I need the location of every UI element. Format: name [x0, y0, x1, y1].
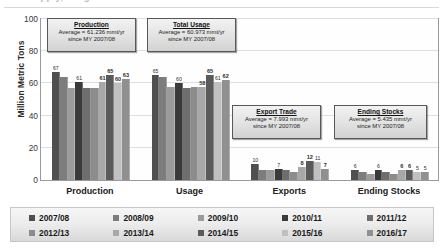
legend-label: 2013/14 [123, 228, 153, 238]
cut-off-title: Supply, Usage and Stocks [0, 0, 443, 7]
bar [60, 77, 68, 180]
bar [75, 82, 83, 180]
bar [198, 87, 206, 180]
callout-average: Average = 60.973 mmt/yr [150, 29, 233, 36]
chart-legend: 2007/082008/092009/102010/112011/12 2012… [10, 207, 434, 242]
legend-item-2007-08[interactable]: 2007/08 [11, 210, 95, 226]
bar-value-label: 61 [70, 75, 89, 81]
legend-item-2008-09[interactable]: 2008/09 [95, 210, 179, 226]
bar [298, 167, 306, 180]
bar [367, 174, 375, 180]
callout-production: ProductionAverage = 61.236 mmt/yrsince M… [47, 18, 136, 52]
callout-title: Production [50, 21, 133, 29]
bar [114, 83, 122, 180]
callout-title: Export Trade [235, 108, 318, 116]
bar [83, 88, 91, 180]
callout-title: Total Usage [150, 21, 233, 29]
legend-item-2012-13[interactable]: 2012/13 [11, 225, 95, 241]
bar [68, 88, 76, 180]
bar-value-label: 10 [246, 157, 265, 163]
legend-label: 2011/12 [377, 213, 407, 223]
callout-period: since MY 2007/08 [337, 123, 424, 130]
legend-swatch-icon [198, 215, 204, 221]
bar [152, 75, 160, 180]
legend-label: 2010/11 [292, 213, 322, 223]
bar [222, 80, 230, 180]
bar [275, 169, 283, 180]
bar [175, 83, 183, 180]
callout-average: Average = 5.435 mmt/yr [337, 116, 424, 123]
callout-period: since MY 2007/08 [150, 36, 233, 43]
bar [183, 88, 191, 180]
bar [91, 88, 99, 180]
legend-label: 2016/17 [377, 228, 407, 238]
legend-swatch-icon [113, 215, 119, 221]
chart-figure: Supply, Usage and Stocks 100806040200 Mi… [0, 0, 443, 250]
legend-swatch-icon [282, 230, 288, 236]
bar [191, 87, 199, 180]
bar [283, 170, 291, 180]
bar [421, 172, 429, 180]
bar-value-label: 65 [146, 68, 165, 74]
callout-total-usage: Total UsageAverage = 60.973 mmt/yrsince … [147, 18, 236, 52]
title-divider [4, 7, 439, 8]
bar-value-label: 6 [346, 163, 365, 169]
legend-swatch-icon [29, 215, 35, 221]
bar-value-label: 11 [308, 155, 327, 161]
bar [290, 172, 298, 180]
legend-label: 2014/15 [208, 228, 238, 238]
bar [351, 170, 359, 180]
bar-value-label: 60 [170, 76, 189, 82]
legend-swatch-icon [282, 215, 288, 221]
callout-title: Ending Stocks [337, 108, 424, 116]
legend-row-2: 2012/132013/142014/152015/162016/17 [11, 225, 433, 241]
bar [214, 82, 222, 180]
bar [52, 72, 60, 180]
bar-value-label: 63 [117, 72, 136, 78]
bar [406, 170, 414, 180]
bar [359, 172, 367, 180]
legend-row-1: 2007/082008/092009/102010/112011/12 [11, 210, 433, 226]
legend-item-2016-17[interactable]: 2016/17 [349, 225, 433, 241]
bar-value-label: 62 [216, 73, 235, 79]
legend-label: 2008/09 [123, 213, 153, 223]
bar [259, 170, 267, 180]
legend-label: 2012/13 [39, 228, 69, 238]
legend-item-2009-10[interactable]: 2009/10 [180, 210, 264, 226]
legend-label: 2007/08 [39, 213, 69, 223]
callout-ending-stocks: Ending StocksAverage = 5.435 mmt/yrsince… [334, 105, 427, 139]
bar [159, 77, 167, 180]
bar-group-exports: 107812117 [251, 19, 329, 180]
bar-value-label: 6 [369, 163, 388, 169]
legend-item-2015-16[interactable]: 2015/16 [264, 225, 348, 241]
legend-swatch-icon [367, 215, 373, 221]
callout-period: since MY 2007/08 [235, 123, 318, 130]
legend-swatch-icon [113, 230, 119, 236]
bar [398, 170, 406, 180]
bar [375, 170, 383, 180]
y-axis-title: Million Metric Tons [16, 14, 26, 144]
bar [251, 164, 259, 180]
bar-value-label: 5 [416, 165, 435, 171]
legend-item-2011-12[interactable]: 2011/12 [349, 210, 433, 226]
y-tick-label: 20 [14, 144, 38, 152]
bar [413, 172, 421, 180]
callout-average: Average = 61.236 mmt/yr [50, 29, 133, 36]
bar [106, 75, 114, 180]
bar [390, 174, 398, 180]
y-tick-label: 0 [14, 176, 38, 184]
legend-item-2014-15[interactable]: 2014/15 [180, 225, 264, 241]
legend-swatch-icon [367, 230, 373, 236]
callout-export-trade: Export TradeAverage = 7.993 mmt/yrsince … [232, 105, 321, 139]
bar-group-ending-stocks: 666655 [351, 19, 429, 180]
bar [122, 79, 130, 180]
legend-label: 2009/10 [208, 213, 238, 223]
callout-period: since MY 2007/08 [50, 36, 133, 43]
legend-item-2010-11[interactable]: 2010/11 [264, 210, 348, 226]
bar [99, 82, 107, 180]
bar-value-label: 7 [316, 162, 335, 168]
legend-swatch-icon [198, 230, 204, 236]
bar [206, 75, 214, 180]
bar [267, 170, 275, 180]
legend-item-2013-14[interactable]: 2013/14 [95, 225, 179, 241]
